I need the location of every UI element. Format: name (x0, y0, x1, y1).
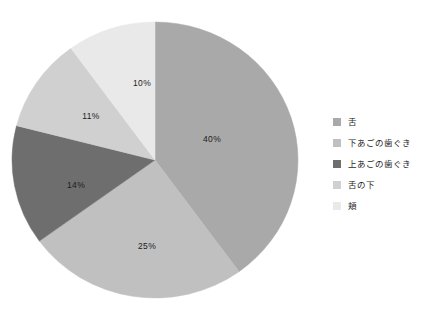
pie-slice-value-label: 10% (133, 78, 151, 88)
pie-chart-plot-area: 40%25%14%11%10% (0, 0, 310, 322)
pie-chart-figure: 40%25%14%11%10% 舌下あごの歯ぐき上あごの歯ぐき舌の下頬 (0, 0, 433, 322)
legend-item[interactable]: 上あごの歯ぐき (333, 154, 433, 174)
legend-item-label: 上あごの歯ぐき (348, 159, 411, 169)
legend-item[interactable]: 舌 (333, 112, 433, 132)
legend-item-label: 舌 (348, 117, 357, 127)
pie-slice-value-label: 14% (67, 180, 85, 190)
legend-item[interactable]: 下あごの歯ぐき (333, 133, 433, 153)
legend-color-swatch-icon (333, 181, 341, 189)
pie-slice-value-label: 11% (82, 111, 100, 121)
pie-slice-value-label: 40% (203, 134, 221, 144)
legend-item-label: 舌の下 (348, 180, 375, 190)
legend-item[interactable]: 舌の下 (333, 175, 433, 195)
legend-item-label: 下あごの歯ぐき (348, 138, 411, 148)
legend-item[interactable]: 頬 (333, 196, 433, 216)
pie-chart-svg: 40%25%14%11%10% (0, 0, 310, 322)
legend-color-swatch-icon (333, 160, 341, 168)
legend-color-swatch-icon (333, 202, 341, 210)
legend-item-label: 頬 (348, 201, 357, 211)
pie-slice-value-label: 25% (138, 241, 156, 251)
legend-color-swatch-icon (333, 139, 341, 147)
legend-color-swatch-icon (333, 118, 341, 126)
chart-legend: 舌下あごの歯ぐき上あごの歯ぐき舌の下頬 (333, 112, 433, 217)
